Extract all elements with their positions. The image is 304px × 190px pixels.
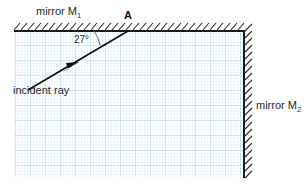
mirror-m2-label-subscript: 2 (297, 105, 301, 114)
mirror-m2-label-text: mirror M (256, 99, 297, 111)
mirror-m1-label-text: mirror M (36, 5, 77, 17)
mirror-m1 (14, 23, 244, 31)
mirror-m2-label: mirror M2 (256, 100, 301, 114)
mirror-m1-label-subscript: 1 (77, 11, 81, 20)
optics-ray-diagram: mirror M1 mirror M2 incident ray A 27° (0, 0, 304, 190)
point-a-label: A (124, 10, 132, 21)
mirror-m2 (244, 24, 252, 178)
mirror-m1-label: mirror M1 (36, 6, 81, 20)
angle-27-label: 27° (74, 35, 89, 45)
mirror-m2-hatching (245, 24, 252, 178)
mirror-m1-hatching (14, 23, 244, 30)
graph-paper-grid (14, 31, 244, 178)
incident-ray-label: incident ray (13, 85, 69, 96)
